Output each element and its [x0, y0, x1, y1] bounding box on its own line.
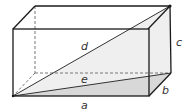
- vertex-dot: [168, 4, 171, 7]
- label-c: c: [176, 36, 182, 49]
- label-e: e: [81, 73, 88, 86]
- prism-diagram: d e a b c: [0, 0, 186, 111]
- label-b: b: [162, 84, 169, 97]
- label-d: d: [81, 40, 89, 53]
- vertex-dot: [12, 95, 14, 97]
- label-a: a: [81, 99, 88, 111]
